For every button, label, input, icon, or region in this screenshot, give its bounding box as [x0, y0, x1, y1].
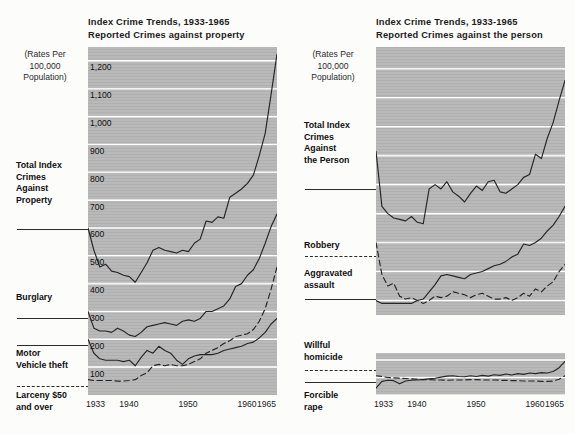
rate-note-person: (Rates Per 100,000 Population): [294, 49, 372, 84]
panel-property: Index Crime Trends, 1933-1965 Reported C…: [0, 0, 287, 434]
crime-trends-figure: Index Crime Trends, 1933-1965 Reported C…: [0, 0, 575, 434]
series-total-index-crimes-against-the-person: [376, 80, 565, 223]
sidelabel-larceny-50-and-over: Larceny $50 and over: [16, 390, 67, 413]
y-tick-label: 200: [90, 341, 124, 351]
x-tick-label: 1965: [257, 399, 276, 409]
leader-line-burglary: [17, 318, 89, 319]
x-tick-label: 1965: [545, 399, 564, 409]
y-tick-label: 900: [90, 146, 124, 156]
y-tick-label: 700: [90, 202, 124, 212]
series-forcible-rape: [376, 361, 565, 388]
x-tick-label: 1950: [466, 399, 485, 409]
x-tick-label: 1960: [525, 399, 544, 409]
x-tick-label: 1950: [178, 399, 197, 409]
sidelabel-motor-vehicle-theft: Motor Vehicle theft: [16, 348, 68, 371]
y-tick-label: 300: [90, 313, 124, 323]
y-tick-label: 100: [90, 369, 124, 379]
sidelabel-willful-homicide: Willful homicide: [304, 340, 343, 363]
panel-property-title-line2: Reported Crimes against property: [88, 29, 245, 42]
plot-area-person: [376, 47, 565, 315]
sidelabel-forcible-rape: Forcible rape: [304, 390, 338, 413]
leader-line-robbery: [305, 256, 377, 257]
chart-svg-person: [376, 47, 565, 315]
y-tick-label: 800: [90, 174, 124, 184]
y-tick-label: 1,000: [90, 118, 124, 128]
y-tick-label: 400: [90, 285, 124, 295]
leader-line-total-property: [17, 229, 89, 230]
x-tick-label: 1940: [119, 399, 138, 409]
x-axis-property: 19331940195019601965: [88, 399, 277, 411]
sidelabel-burglary: Burglary: [16, 292, 52, 304]
leader-line-willful-homicide: [305, 370, 377, 371]
x-axis-person: 19331940195019601965: [376, 399, 565, 411]
y-tick-label: 600: [90, 229, 124, 239]
series-robbery: [376, 243, 565, 304]
panel-person: Index Crime Trends, 1933-1965 Reported C…: [288, 0, 575, 434]
panel-person-title: Index Crime Trends, 1933-1965 Reported C…: [376, 16, 543, 41]
x-tick-label: 1940: [407, 399, 426, 409]
leader-line-larceny: [17, 386, 89, 387]
panel-property-title-line1: Index Crime Trends, 1933-1965: [88, 17, 230, 27]
y-tick-label: 500: [90, 257, 124, 267]
sidelabel-robbery: Robbery: [304, 240, 340, 252]
leader-line-aggravated-assault: [305, 299, 377, 300]
y-tick-label: 1,100: [90, 90, 124, 100]
x-tick-label: 1933: [86, 399, 105, 409]
chart-svg-person-lower: [376, 353, 565, 395]
panel-person-title-line1: Index Crime Trends, 1933-1965: [376, 17, 518, 27]
sidelabel-aggravated-assault: Aggravated assault: [304, 268, 352, 291]
x-tick-label: 1960: [237, 399, 256, 409]
panel-person-title-line2: Reported Crimes against the person: [376, 29, 543, 42]
panel-property-title: Index Crime Trends, 1933-1965 Reported C…: [88, 16, 245, 41]
leader-line-forcible-rape: [305, 382, 377, 383]
plot-area-person-lower: [376, 353, 565, 395]
series-willful-homicide: [376, 376, 565, 382]
rate-note-property: (Rates Per 100,000 Population): [6, 49, 84, 84]
x-tick-label: 1933: [374, 399, 393, 409]
leader-line-total-person: [305, 189, 377, 190]
leader-line-motor-vehicle-theft: [17, 345, 89, 346]
sidelabel-total-index-crimes-against-the-person: Total Index Crimes Against the Person: [304, 120, 350, 166]
y-tick-label: 1,200: [90, 62, 124, 72]
sidelabel-total-index-crimes-against-property: Total Index Crimes Against Property: [16, 160, 62, 206]
